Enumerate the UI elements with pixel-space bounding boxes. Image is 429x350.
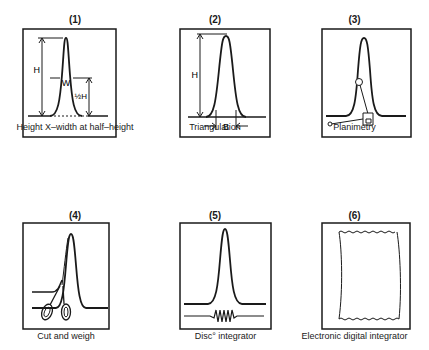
height-label: H [192,70,199,80]
panel-caption: Cut and weigh [23,331,109,341]
peak-height-width-diagram: H W ½H [0,0,150,140]
panel-caption: Disc° integrator [180,331,271,341]
width-label: W [62,78,71,88]
peak-triangulation-diagram: H B [140,0,290,140]
panel-disc-integrator: (5) Disc° integrator [140,190,290,350]
panel-electronic-integrator: (6) Electronic digital integrator [280,190,429,350]
panel-caption: Height X–width at half–height [0,122,150,132]
height-label: H [34,65,41,75]
panel-cut-and-weigh: (4) Cut and weigh [0,190,150,350]
panel-caption: Electronic digital integrator [280,331,429,341]
panel-planimetry: (3) Planimetry [280,0,429,140]
panel-height-width: (1) H W ½H Height X–width at half–height [0,0,150,140]
panel-caption: Triangulation [140,122,290,132]
panel-caption: Planimetry [280,122,429,132]
scissors-cut-diagram [0,190,150,350]
disc-integrator-diagram [140,190,290,350]
planimeter-diagram [280,0,429,140]
panel-triangulation: (2) H B Triangulation [140,0,290,140]
half-height-label: ½H [75,92,88,101]
printout-tape-diagram [280,190,429,350]
